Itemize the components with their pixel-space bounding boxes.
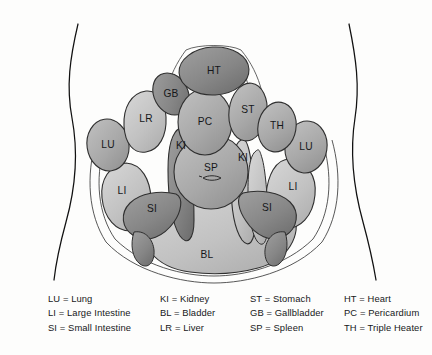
organ-label-ki-left: KI — [176, 140, 186, 151]
legend: LU = Lung LI = Large Intestine SI = Smal… — [0, 292, 432, 352]
organ-label-gb: GB — [163, 88, 178, 99]
organ-label-si-left: SI — [147, 203, 157, 214]
hara-organ-diagram: HT GB LR PC ST TH LU LU KI KI SP LI LI S… — [0, 0, 432, 288]
legend-item-sp: SP = Spleen — [250, 321, 324, 335]
organ-label-li-right: LI — [289, 181, 298, 192]
legend-item-pc: PC = Pericardium — [344, 306, 423, 320]
legend-item-gb: GB = Gallbladder — [250, 306, 324, 320]
organ-label-si-right: SI — [262, 202, 272, 213]
legend-item-st: ST = Stomach — [250, 292, 324, 306]
legend-item-th: TH = Triple Heater — [344, 321, 423, 335]
legend-column-1: LU = Lung LI = Large Intestine SI = Smal… — [48, 292, 131, 335]
organ-label-lu-right: LU — [299, 141, 312, 152]
legend-item-bl: BL = Bladder — [160, 306, 215, 320]
legend-item-ht: HT = Heart — [344, 292, 423, 306]
organ-label-th: TH — [270, 120, 284, 131]
organ-label-pc: PC — [198, 116, 213, 127]
legend-column-3: ST = Stomach GB = Gallbladder SP = Splee… — [250, 292, 324, 335]
legend-item-lu: LU = Lung — [48, 292, 131, 306]
legend-item-si: SI = Small Intestine — [48, 321, 131, 335]
diagram-svg: HT GB LR PC ST TH LU LU KI KI SP LI LI S… — [0, 0, 432, 288]
legend-item-lr: LR = Liver — [160, 321, 215, 335]
organ-label-ki-right: KI — [238, 152, 248, 163]
legend-item-li: LI = Large Intestine — [48, 306, 131, 320]
organ-label-st: ST — [241, 104, 254, 115]
legend-item-ki: KI = Kidney — [160, 292, 215, 306]
organ-label-sp: SP — [204, 162, 218, 173]
body-outline-right — [349, 24, 376, 280]
body-outline-left — [54, 24, 78, 280]
organ-label-ht: HT — [207, 65, 221, 76]
organ-label-li-left: LI — [118, 185, 127, 196]
legend-column-4: HT = Heart PC = Pericardium TH = Triple … — [344, 292, 423, 335]
organ-label-lu-left: LU — [101, 139, 114, 150]
organ-label-lr: LR — [139, 113, 152, 124]
organ-label-bl: BL — [201, 249, 214, 260]
legend-column-2: KI = Kidney BL = Bladder LR = Liver — [160, 292, 215, 335]
